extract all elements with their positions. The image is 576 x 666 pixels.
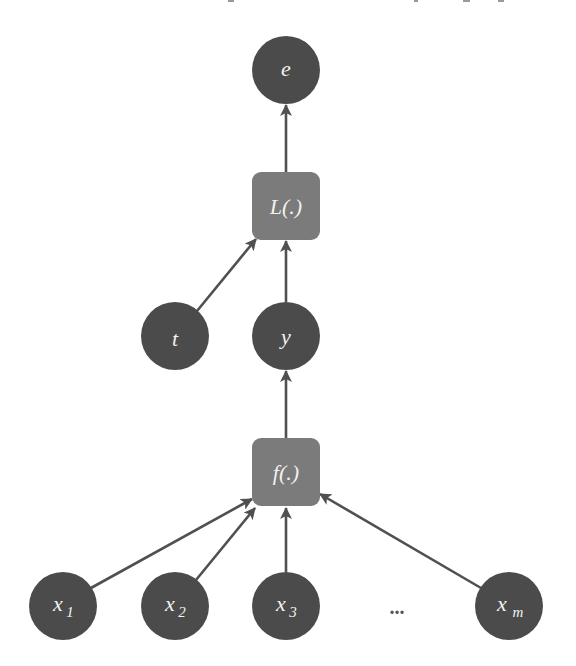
node-x1-subscript: 1 [66, 604, 74, 620]
node-xm: x m [475, 572, 543, 640]
node-x3: x 3 [252, 572, 320, 640]
node-x3-label: x [275, 591, 286, 616]
node-t-label: t [172, 326, 179, 351]
clipped-caption-fragment [228, 0, 504, 2]
edge-xm-to-f [320, 494, 481, 588]
computation-graph: e L(.) t y f(.) x 1 x 2 x 3 ... [0, 0, 576, 666]
edge-x2-to-f [196, 508, 255, 580]
node-xm-label: x [496, 591, 507, 616]
node-x2: x 2 [141, 572, 209, 640]
edge-t-to-L [197, 239, 256, 311]
ellipsis: ... [390, 596, 405, 618]
node-x3-subscript: 3 [288, 604, 297, 620]
node-x1-label: x [52, 591, 63, 616]
node-x2-subscript: 2 [178, 604, 186, 620]
node-y-label: y [279, 324, 291, 349]
node-x2-label: x [164, 591, 175, 616]
node-e: e [252, 36, 320, 104]
node-loss-function-label: L(.) [269, 194, 302, 219]
node-loss-function: L(.) [252, 172, 320, 240]
node-model-function-label: f(.) [273, 460, 299, 485]
node-t: t [141, 302, 209, 370]
node-model-function: f(.) [252, 438, 320, 506]
node-xm-subscript: m [513, 604, 524, 620]
node-e-label: e [281, 56, 291, 81]
node-y: y [252, 302, 320, 370]
node-x1: x 1 [29, 572, 97, 640]
